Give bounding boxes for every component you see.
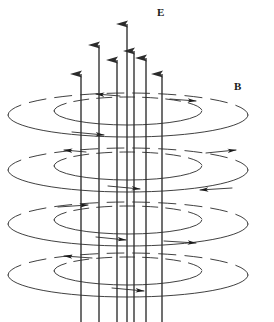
- b-ring-inner-front: [54, 220, 202, 234]
- b-ring-inner-back: [54, 97, 202, 111]
- b-ring-inner-back: [54, 206, 202, 220]
- b-ring-inner-back: [54, 257, 202, 271]
- electric-field-label: E: [157, 7, 165, 18]
- em-field-figure: E B: [0, 0, 274, 322]
- b-ring-outer-back: [8, 253, 248, 275]
- b-ring-arrow-outer-4: [64, 256, 92, 258]
- b-ring-tier-1: [8, 93, 248, 137]
- b-ring-arrow-inner-3: [96, 237, 126, 240]
- b-ring-outer-back: [8, 93, 248, 115]
- b-ring-inner-back: [54, 152, 202, 166]
- b-ring-inner-front: [54, 166, 202, 180]
- b-ring-outer-back: [8, 148, 248, 170]
- b-ring-inner-front: [54, 111, 202, 125]
- magnetic-field-rings: [8, 93, 248, 297]
- b-ring-tier-2: [8, 148, 248, 192]
- b-ring-outer-back: [8, 202, 248, 224]
- b-ring-arrow-outer-2b: [200, 188, 232, 190]
- b-ring-outer-front: [8, 224, 248, 246]
- b-ring-tier-4: [8, 253, 248, 297]
- electric-field-arrows: [81, 24, 162, 322]
- b-ring-arrow-inner-2b: [108, 186, 140, 189]
- magnetic-field-label: B: [234, 81, 242, 92]
- b-ring-arrow-outer-3b: [164, 241, 196, 243]
- b-ring-arrow-outer-2: [206, 150, 236, 153]
- b-ring-inner-front: [54, 271, 202, 285]
- b-ring-outer-front: [8, 170, 248, 192]
- b-ring-tier-3: [8, 202, 248, 246]
- em-field-drawing: [0, 0, 274, 322]
- b-ring-outer-front: [8, 115, 248, 137]
- b-ring-outer-front: [8, 275, 248, 297]
